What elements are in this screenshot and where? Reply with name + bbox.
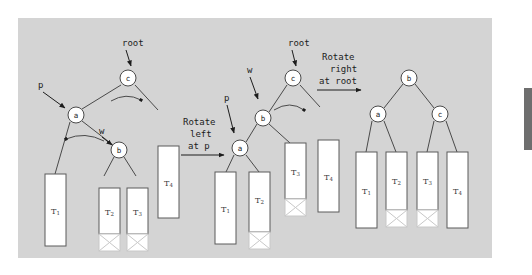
tree-after-dead-boxes: [386, 210, 438, 227]
pointer-arrow-p-2: [227, 105, 234, 133]
edge-b-c-after: [415, 84, 434, 108]
arc-c-right-child: [111, 96, 141, 101]
edge-b-a-mid: [246, 124, 257, 142]
edge-a-T2-mid: [246, 155, 259, 172]
node-label-a-after: a: [376, 110, 381, 119]
vertical-scrollbar-thumb[interactable]: [524, 88, 532, 150]
node-label-c: c: [126, 74, 131, 83]
pointer-arrow-root-2: [292, 50, 296, 66]
tree-before: T1 T2 T3 T4 c: [38, 38, 179, 251]
edge-c-T4-after: [446, 121, 457, 152]
operation-rotate-right-at-root: Rotate right at root: [317, 52, 361, 90]
arc-a-right-child: [66, 135, 104, 141]
op2-line-2: right: [330, 64, 357, 74]
op1-line-3: at p: [188, 141, 210, 151]
op2-line-1: Rotate: [322, 52, 355, 62]
edge-c-T4: [135, 85, 158, 110]
pointer-label-root-2: root: [288, 38, 310, 48]
tree-after-nodes: b a c: [370, 70, 448, 122]
tree-before-nodes: c a b: [68, 70, 136, 158]
node-label-b-after: b: [407, 74, 412, 83]
op1-line-1: Rotate: [183, 117, 216, 127]
tree-after-subtrees: T1 T2 T3 T4: [356, 152, 468, 228]
figure-canvas: T1 T2 T3 T4 c: [0, 0, 532, 275]
edge-b-T3: [124, 157, 136, 176]
pointer-label-p-2: p: [224, 93, 229, 103]
arc-c-right-child-mid: [274, 105, 304, 110]
node-label-b: b: [117, 146, 122, 155]
pointer-label-w-1: w: [99, 126, 105, 136]
edge-c-a: [82, 85, 121, 109]
edge-a-b: [82, 121, 113, 145]
edge-b-T2: [104, 157, 114, 176]
pointer-label-root-1: root: [122, 38, 144, 48]
pointer-arrow-p-1: [43, 92, 65, 108]
node-label-b-mid: b: [261, 114, 266, 123]
edge-a-T2-after: [384, 121, 396, 152]
pointer-label-p-1: p: [38, 80, 43, 90]
avl-rotation-diagram: T1 T2 T3 T4 c: [0, 0, 532, 275]
pointer-arrow-w-2: [250, 77, 258, 99]
edge-c-T4-mid: [300, 85, 320, 107]
node-label-a-mid: a: [238, 144, 243, 153]
pointer-label-w-2: w: [247, 65, 253, 75]
edge-b-T3-mid: [269, 124, 290, 143]
op2-line-3: at root: [319, 76, 357, 86]
tree-middle: T1 T2 T3 T4 c b: [215, 38, 339, 249]
tree-after: T1 T2 T3 T4 b a: [356, 70, 468, 228]
node-label-c-mid: c: [291, 74, 296, 83]
edge-c-T3-after: [427, 121, 434, 152]
tree-before-dead-boxes: [99, 234, 148, 251]
op1-line-2: left: [190, 129, 212, 139]
tree-before-edges: [55, 85, 158, 176]
pointer-arrow-root-1: [126, 50, 131, 66]
node-label-c-after: c: [438, 110, 443, 119]
edge-b-a-after: [384, 84, 403, 108]
edge-a-T1: [55, 122, 70, 174]
operation-rotate-left-at-p: Rotate left at p: [181, 117, 224, 155]
node-label-a: a: [74, 111, 79, 120]
edge-a-T1-mid: [226, 155, 234, 172]
edge-a-T1-after: [366, 121, 372, 152]
